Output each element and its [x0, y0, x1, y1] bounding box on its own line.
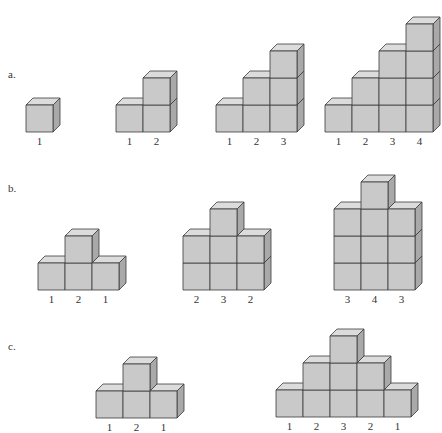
cube-stack-diagram: a.1121231234b.121232343c.12112321: [0, 0, 442, 433]
cube-drawing: [0, 0, 442, 433]
cube-front-face: [361, 182, 388, 209]
cube-front-face: [388, 263, 415, 290]
column-count-label: 1: [329, 135, 349, 147]
cube-front-face: [150, 391, 177, 418]
cube-front-face: [388, 236, 415, 263]
cube-front-face: [406, 24, 433, 51]
cube-front-face: [183, 236, 210, 263]
column-count-label: 2: [356, 135, 376, 147]
column-count-label: 4: [410, 135, 430, 147]
cube-front-face: [96, 391, 123, 418]
cube-front-face: [361, 209, 388, 236]
cube-front-face: [303, 363, 330, 390]
cube-front-face: [243, 78, 270, 105]
cube-front-face: [243, 105, 270, 132]
column-count-label: 1: [42, 293, 62, 305]
cube-front-face: [237, 263, 264, 290]
cube-front-face: [210, 236, 237, 263]
column-count-label: 3: [334, 420, 354, 432]
row-label: a.: [8, 68, 16, 80]
column-count-label: 1: [96, 293, 116, 305]
cube-front-face: [379, 78, 406, 105]
cube-front-face: [38, 263, 65, 290]
cube-front-face: [334, 209, 361, 236]
cube-front-face: [334, 263, 361, 290]
cube-front-face: [357, 363, 384, 390]
cube-front-face: [361, 236, 388, 263]
cube-front-face: [406, 78, 433, 105]
cube-front-face: [361, 263, 388, 290]
cube-front-face: [352, 78, 379, 105]
column-count-label: 3: [338, 293, 358, 305]
cube-front-face: [330, 336, 357, 363]
cube-front-face: [379, 105, 406, 132]
cube-front-face: [210, 263, 237, 290]
column-count-label: 1: [388, 420, 408, 432]
cube-front-face: [406, 51, 433, 78]
column-count-label: 3: [383, 135, 403, 147]
cube-front-face: [270, 78, 297, 105]
cube-front-face: [65, 236, 92, 263]
column-count-label: 1: [100, 421, 120, 433]
cube-front-face: [330, 390, 357, 417]
column-count-label: 1: [120, 135, 140, 147]
cube-front-face: [237, 236, 264, 263]
column-count-label: 2: [147, 135, 167, 147]
cube-front-face: [352, 105, 379, 132]
cube-front-face: [123, 364, 150, 391]
cube-front-face: [143, 105, 170, 132]
column-count-label: 1: [220, 135, 240, 147]
column-count-label: 1: [280, 420, 300, 432]
column-count-label: 2: [69, 293, 89, 305]
row-label: c.: [8, 340, 16, 352]
cube-front-face: [325, 105, 352, 132]
cube-front-face: [357, 390, 384, 417]
cube-front-face: [406, 105, 433, 132]
column-count-label: 2: [241, 293, 261, 305]
cube-front-face: [26, 105, 53, 132]
cube-front-face: [143, 78, 170, 105]
column-count-label: 3: [392, 293, 412, 305]
row-label: b.: [8, 182, 16, 194]
cube-front-face: [330, 363, 357, 390]
column-count-label: 3: [274, 135, 294, 147]
column-count-label: 2: [127, 421, 147, 433]
cube-front-face: [92, 263, 119, 290]
cube-front-face: [270, 105, 297, 132]
column-count-label: 1: [154, 421, 174, 433]
cube-front-face: [379, 51, 406, 78]
column-count-label: 4: [365, 293, 385, 305]
column-count-label: 3: [214, 293, 234, 305]
column-count-label: 2: [307, 420, 327, 432]
cube-front-face: [388, 209, 415, 236]
cube-front-face: [334, 236, 361, 263]
column-count-label: 1: [30, 135, 50, 147]
cube-front-face: [123, 391, 150, 418]
cube-front-face: [210, 209, 237, 236]
cube-front-face: [384, 390, 411, 417]
cube-front-face: [116, 105, 143, 132]
cube-front-face: [65, 263, 92, 290]
cube-front-face: [183, 263, 210, 290]
cube-front-face: [270, 51, 297, 78]
column-count-label: 2: [361, 420, 381, 432]
cube-front-face: [276, 390, 303, 417]
column-count-label: 2: [187, 293, 207, 305]
column-count-label: 2: [247, 135, 267, 147]
cube-front-face: [303, 390, 330, 417]
cube-front-face: [216, 105, 243, 132]
